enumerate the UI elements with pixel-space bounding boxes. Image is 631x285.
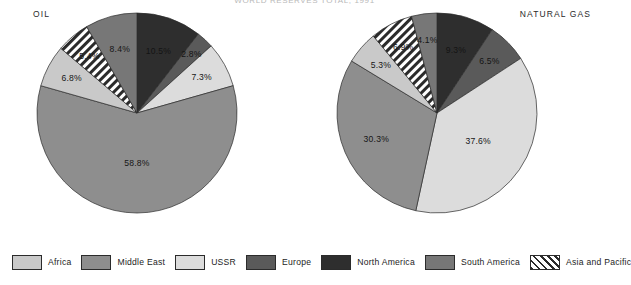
- legend-item[interactable]: Europe: [246, 255, 311, 270]
- pie-slice-label: 37.6%: [466, 136, 492, 146]
- legend-swatch: [321, 255, 351, 270]
- legend-item[interactable]: Africa: [12, 255, 71, 270]
- pie-slice-label: 5.4%: [79, 51, 100, 61]
- pie-slice-label: 30.3%: [364, 134, 390, 144]
- legend-item[interactable]: Middle East: [81, 255, 165, 270]
- pie-slice-label: 58.8%: [124, 158, 150, 168]
- pie-slice-label: 5.3%: [371, 60, 392, 70]
- legend-item-label: Middle East: [117, 257, 165, 267]
- pie-svg-oil: 10.5%2.8%7.3%58.8%6.8%5.4%8.4%: [0, 0, 300, 240]
- legend-swatch: [246, 255, 276, 270]
- pie-slice-label: 6.5%: [479, 56, 500, 66]
- legend-swatch: [12, 255, 42, 270]
- legend-item-label: Europe: [282, 257, 311, 267]
- pie-slice-label: 2.8%: [181, 49, 202, 59]
- pie-slice-label: 6.8%: [62, 73, 83, 83]
- pie-slice-label: 6.9%: [393, 42, 414, 52]
- pie-slice-label: 9.3%: [446, 45, 467, 55]
- pie-panel-natural-gas: NATURAL GAS 9.3%6.5%37.6%30.3%5.3%6.9%4.…: [300, 0, 600, 240]
- legend-swatch: [175, 255, 205, 270]
- pie-slice-label: 10.5%: [146, 46, 172, 56]
- legend-item-label: South America: [461, 257, 520, 267]
- pie-panel-oil: OIL 10.5%2.8%7.3%58.8%6.8%5.4%8.4%: [0, 0, 300, 240]
- legend-item-label: Africa: [48, 257, 71, 267]
- pie-slice-label: 8.4%: [110, 44, 131, 54]
- legend-item[interactable]: Asia and Pacific: [530, 255, 631, 270]
- legend-swatch: [425, 255, 455, 270]
- legend-item[interactable]: South America: [425, 255, 520, 270]
- pie-chart-natural-gas: 9.3%6.5%37.6%30.3%5.3%6.9%4.1%: [300, 0, 600, 240]
- legend-item[interactable]: USSR: [175, 255, 236, 270]
- legend-item-label: North America: [357, 257, 415, 267]
- pie-slice-label: 7.3%: [192, 72, 213, 82]
- pie-svg-natural-gas: 9.3%6.5%37.6%30.3%5.3%6.9%4.1%: [300, 0, 600, 240]
- pie-chart-oil: 10.5%2.8%7.3%58.8%6.8%5.4%8.4%: [0, 0, 300, 240]
- legend: AfricaMiddle EastUSSREuropeNorth America…: [0, 247, 609, 277]
- legend-swatch: [81, 255, 111, 270]
- pie-slice-label: 4.1%: [417, 35, 438, 45]
- legend-swatch: [530, 255, 560, 270]
- legend-item-label: Asia and Pacific: [566, 257, 631, 267]
- legend-item[interactable]: North America: [321, 255, 415, 270]
- legend-item-label: USSR: [211, 257, 236, 267]
